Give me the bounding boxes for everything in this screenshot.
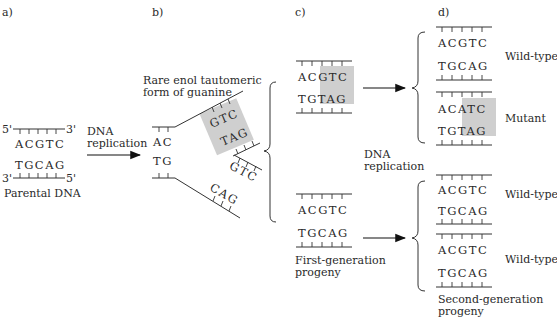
- panel-label-b: b): [152, 6, 163, 19]
- top-strand-ticks: [20, 129, 56, 134]
- d3-bottom-bases: TGCAG: [438, 204, 489, 218]
- d3-label: Wild-type: [505, 188, 557, 201]
- replication-fork: Rare enol tautomeric form of guanine AC …: [143, 74, 262, 218]
- d2-top-bases: ACATC: [437, 102, 487, 116]
- tautomer-caption-line2: form of guanine: [143, 86, 232, 99]
- three-prime-label-top: 3': [66, 123, 76, 136]
- c-bottom-duplex-top-bases: ACGTC: [297, 203, 348, 217]
- panel-label-d: d): [438, 6, 449, 19]
- d3-top-bases: ACGTC: [437, 183, 488, 197]
- second-generation-duplex-3: ACGTC TGCAG Wild-type: [436, 175, 557, 224]
- panel-label-c: c): [295, 6, 305, 19]
- second-generation-duplex-2-mutant: ACATC TGTAG Mutant: [436, 92, 546, 145]
- first-generation-duplex-mutant: ACGTC TGTAG: [296, 61, 354, 113]
- five-prime-label-top: 5': [2, 123, 12, 136]
- d2-label: Mutant: [505, 112, 546, 125]
- top-strand-bases: ACGTC: [14, 137, 65, 151]
- three-prime-label-bottom: 3': [2, 172, 12, 185]
- parental-dna: 5' 3' ACGTC TGCAG 3' 5' Parental DNA: [2, 123, 82, 200]
- bottom-strand-bases: TGCAG: [15, 158, 66, 172]
- second-generation-duplex-4: ACGTC TGCAG Wild-type: [436, 234, 557, 287]
- d4-label: Wild-type: [505, 253, 557, 266]
- fork-bottom-bases: TG: [153, 154, 173, 168]
- d1-top-bases: ACGTC: [437, 36, 488, 50]
- panel-label-a: a): [2, 6, 13, 19]
- first-generation-caption-line2: progeny: [295, 266, 342, 279]
- brace-bottom-d: [412, 181, 425, 291]
- lower-arm-template-bases: CAG: [208, 180, 242, 208]
- c-replication-label-line2: replication: [364, 160, 424, 173]
- c-top-duplex-top-bases: ACGTC: [297, 70, 348, 84]
- d4-bottom-bases: TGCAG: [438, 266, 489, 280]
- replication-arrow-ab: DNA replication: [87, 125, 147, 155]
- c-bottom-duplex-bottom-bases: TGCAG: [298, 226, 349, 240]
- five-prime-label-bottom: 5': [66, 172, 76, 185]
- d1-bottom-bases: TGCAG: [438, 59, 489, 73]
- brace-b-to-c: [264, 82, 276, 222]
- d4-top-bases: ACGTC: [437, 243, 488, 257]
- second-generation-duplex-1: ACGTC TGCAG Wild-type: [436, 27, 557, 80]
- bottom-strand-ticks: [20, 173, 56, 178]
- dna-tautomer-mutation-diagram: a) b) c) d) 5' 3' ACGTC TGCAG 3' 5' Pare…: [0, 0, 557, 319]
- d1-label: Wild-type: [505, 50, 557, 63]
- lower-arm-new-bases: GTC: [227, 158, 260, 185]
- arrow-label-line2: replication: [87, 137, 147, 150]
- d2-bottom-bases: TGTAG: [438, 124, 487, 138]
- parental-dna-caption: Parental DNA: [4, 187, 82, 200]
- fork-top-bases: AC: [152, 135, 173, 149]
- c-top-duplex-bottom-bases: TGTAG: [298, 92, 347, 106]
- second-generation-caption-line2: progeny: [438, 305, 485, 318]
- first-generation-duplex-wildtype: ACGTC TGCAG First-generation progeny: [295, 194, 386, 279]
- brace-top-d: [412, 32, 425, 143]
